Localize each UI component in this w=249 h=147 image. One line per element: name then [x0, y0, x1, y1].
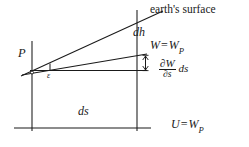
geoid-wp: W: [188, 117, 198, 131]
point-p-marker: [31, 71, 34, 74]
level-surface-label: W=WP: [150, 39, 184, 54]
partial-numerator: ∂W: [159, 58, 176, 69]
geoid-u: U: [171, 117, 180, 131]
level-surface-w: W: [150, 38, 160, 52]
diagram-canvas: [0, 0, 249, 147]
partial-fraction: ∂W∂s: [159, 58, 176, 80]
partial-derivative-label: ∂W∂sds: [159, 58, 188, 80]
level-surface-equals: =: [160, 38, 169, 52]
geoid-label: U=WP: [171, 118, 204, 133]
level-surface-line: [22, 54, 147, 75]
level-surface-wp: W: [169, 38, 179, 52]
partial-denominator: ∂s: [159, 69, 176, 80]
ds-label: ds: [78, 105, 89, 117]
epsilon-label: ε: [47, 72, 50, 80]
earth-surface-label: earth's surface: [150, 4, 216, 16]
partial-tail: ds: [176, 63, 189, 74]
geoid-wp-subscript: P: [198, 125, 203, 135]
dh-label: dh: [133, 26, 145, 38]
point-p-label: P: [18, 47, 26, 60]
level-surface-wp-subscript: P: [179, 46, 184, 56]
earth-surface-line: [21, 11, 163, 76]
geodesy-diagram: earth's surface dh W=WP P ε ∂W∂sds ds U=…: [0, 0, 249, 147]
